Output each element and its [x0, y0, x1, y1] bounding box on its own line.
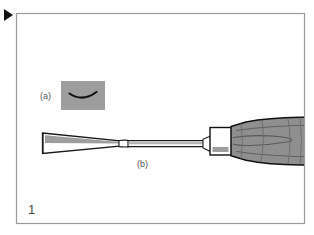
inset-background — [61, 81, 105, 110]
figure-container: (a) (b) 1 — [0, 0, 314, 235]
ferrule-band — [213, 147, 229, 152]
label-b: (b) — [137, 160, 148, 169]
figure-illustration — [0, 0, 314, 235]
handle-group — [231, 117, 314, 165]
cross-section-inset — [61, 81, 105, 110]
shaft-flute — [129, 142, 208, 144]
figure-number: 1 — [28, 203, 35, 216]
label-a: (a) — [40, 92, 51, 101]
figure-frame — [17, 14, 305, 224]
